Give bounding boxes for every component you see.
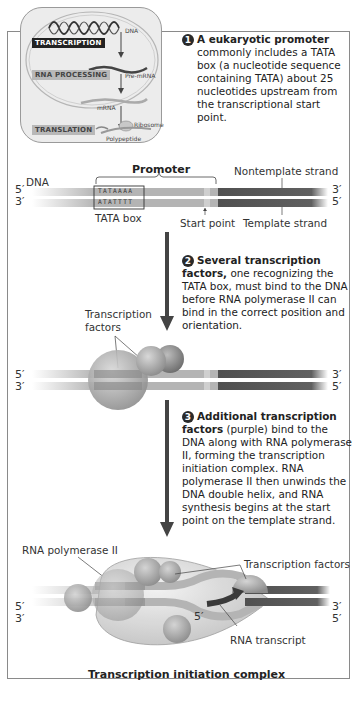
template-strand-label: Template strand — [243, 217, 327, 229]
step-3-body: (purple) bind to the DNA along with RNA … — [182, 423, 352, 526]
overview-inset: TRANSCRIPTION DNA RNA PROCESSING Pre-mRN… — [20, 7, 162, 143]
translation-label: TRANSLATION — [32, 125, 95, 135]
rna-transcript-label: RNA transcript — [230, 634, 306, 646]
pre-mrna-label: Pre-mRNA — [125, 72, 155, 79]
step-2-text: 2Several transcription factors, one reco… — [182, 254, 352, 332]
step-number-2: 2 — [182, 255, 194, 267]
tata-sequence-bottom: ATATTTT — [98, 198, 133, 205]
down-arrow-2-icon — [160, 400, 174, 538]
tata-sequence-top: TATAAAA — [98, 187, 133, 194]
p2-bottom-3prime: 3′ — [15, 380, 25, 393]
promoter-dna-diagram — [0, 170, 359, 215]
step-1-text: 1A eukaryotic promoter commonly includes… — [182, 33, 352, 124]
ribosome-label: Ribosome — [134, 121, 164, 128]
p3-bottom-3prime: 3′ — [15, 612, 25, 625]
step-1-heading: A eukaryotic promoter — [197, 33, 329, 45]
step-number-1: 1 — [182, 34, 194, 46]
mrna-label: mRNA — [97, 104, 116, 111]
p2-bottom-5prime: 5′ — [332, 380, 342, 393]
p2-tf-label-line1: Transcription — [85, 308, 152, 321]
step-number-3: 3 — [182, 411, 194, 423]
p3-bottom-5prime: 5′ — [332, 612, 342, 625]
down-arrow-1-icon — [160, 232, 174, 332]
rna-5prime-label: 5′ — [194, 610, 204, 623]
complex-label: Transcription initiation complex — [88, 668, 285, 681]
rna-processing-label: RNA PROCESSING — [32, 70, 110, 80]
tf-binding-diagram — [0, 330, 359, 410]
inset-dna-label: DNA — [125, 27, 138, 34]
tata-box-label: TATA box — [95, 212, 142, 224]
initiation-complex-diagram — [0, 555, 359, 665]
transcription-label: TRANSCRIPTION — [32, 38, 105, 48]
polypeptide-label: Polypeptide — [106, 135, 141, 142]
start-point-label: Start point — [180, 217, 235, 229]
p1-bottom-5prime: 5′ — [332, 195, 342, 208]
step-1-body: commonly includes a TATA box (a nucleoti… — [182, 46, 352, 124]
p1-bottom-3prime: 3′ — [15, 195, 25, 208]
step-3-text: 3Additional transcription factors (purpl… — [182, 410, 352, 527]
